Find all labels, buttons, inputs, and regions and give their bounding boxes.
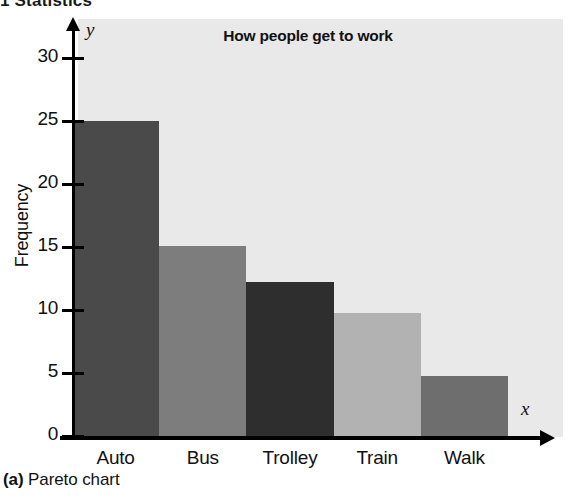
y-axis-tick-label: 25 — [22, 108, 58, 130]
pareto-chart-figure: How people get to work y x 051015202530 … — [0, 0, 585, 497]
y-axis-tick — [62, 435, 84, 438]
x-axis-arrow-icon — [540, 430, 555, 446]
y-axis-tick-label: 10 — [22, 297, 58, 319]
y-axis-title: Frequency — [12, 166, 33, 286]
x-axis-label-walk: Walk — [421, 447, 508, 469]
y-axis-variable-label: y — [86, 19, 94, 41]
x-axis-label-auto: Auto — [72, 447, 159, 469]
figure-caption-label: (a) — [3, 470, 23, 489]
bar-train — [334, 313, 421, 436]
x-axis-variable-label: x — [521, 398, 529, 420]
x-axis-label-bus: Bus — [159, 447, 246, 469]
x-axis-label-train: Train — [334, 447, 421, 469]
y-axis-tick — [62, 57, 84, 60]
y-axis-tick-label: 5 — [22, 360, 58, 382]
y-axis-tick — [62, 309, 84, 312]
y-axis-tick — [62, 246, 84, 249]
bar-walk — [421, 376, 508, 436]
y-axis-tick-label: 0 — [22, 423, 58, 445]
bar-bus — [159, 246, 246, 436]
figure-caption: (a) Pareto chart — [3, 470, 120, 490]
y-axis-tick — [62, 183, 84, 186]
bar-trolley — [246, 282, 333, 436]
x-axis-label-trolley: Trolley — [246, 447, 333, 469]
figure-caption-text: Pareto chart — [28, 470, 119, 489]
bar-series — [0, 0, 585, 497]
y-axis-tick-label: 30 — [22, 45, 58, 67]
y-axis-tick — [62, 120, 84, 123]
y-axis-arrow-icon — [66, 17, 80, 31]
x-axis-line — [60, 436, 543, 440]
bar-auto — [72, 121, 159, 436]
y-axis-line — [72, 28, 75, 439]
y-axis-tick — [62, 372, 84, 375]
